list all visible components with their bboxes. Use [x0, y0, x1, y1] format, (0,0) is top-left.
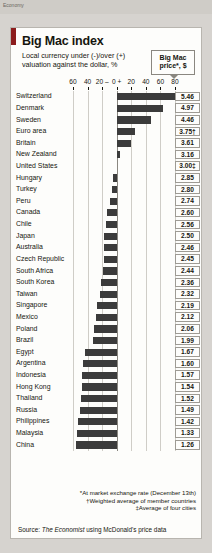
country-label: New Zealand — [16, 150, 57, 157]
price-value: 2.45 — [175, 254, 200, 264]
country-label: Thailand — [16, 394, 42, 401]
source-suffix: using McDonald's price data — [84, 526, 166, 533]
country-label: Australia — [16, 243, 43, 250]
x-tick-label: 0 + — [112, 78, 121, 85]
value-bar — [112, 186, 117, 193]
price-value: 3.61 — [175, 138, 200, 148]
x-tick-label: 40 — [84, 78, 91, 85]
price-value: 2.06 — [175, 324, 200, 334]
value-bar — [97, 302, 117, 309]
price-value: 2.32 — [175, 289, 200, 299]
country-label: Egypt — [16, 348, 34, 355]
x-tick-mark — [102, 87, 103, 90]
x-tick-label: 20 – — [96, 78, 109, 85]
price-value: 1.60 — [175, 359, 200, 369]
country-label: Philippines — [16, 417, 49, 424]
value-bar — [78, 418, 117, 425]
chart-row: Euro area3.75† — [11, 126, 203, 138]
chart-row: Malaysia1.33 — [11, 428, 203, 440]
source-prefix: Source: — [18, 526, 42, 533]
chart-row: Egypt1.67 — [11, 346, 203, 358]
chart-row: Canada2.60 — [11, 207, 203, 219]
value-bar — [85, 349, 117, 356]
x-tick-mark — [146, 87, 147, 90]
country-label: South Africa — [16, 267, 53, 274]
country-label: Canada — [16, 208, 40, 215]
value-bar — [80, 407, 116, 414]
x-tick-mark — [117, 87, 118, 90]
country-label: Singapore — [16, 301, 47, 308]
value-bar — [81, 395, 117, 402]
x-tick-label: 40 — [142, 78, 149, 85]
value-bar — [104, 256, 117, 263]
country-label: Denmark — [16, 104, 44, 111]
price-value: 2.85 — [175, 173, 200, 183]
chart-row: Turkey2.80 — [11, 184, 203, 196]
chart-row: New Zealand3.16 — [11, 149, 203, 161]
price-value: 1.52 — [175, 394, 200, 404]
country-label: China — [16, 441, 34, 448]
value-bar — [106, 221, 117, 228]
chart-row: Peru2.74 — [11, 195, 203, 207]
country-label: Russia — [16, 406, 37, 413]
footnote-four-cities: ‡Average of four cities — [80, 504, 196, 512]
country-label: Japan — [16, 232, 35, 239]
price-value: 2.36 — [175, 278, 200, 288]
price-value: 1.33 — [175, 428, 200, 438]
price-value: 1.42 — [175, 417, 200, 427]
value-bar — [103, 267, 117, 274]
country-label: Hungary — [16, 174, 42, 181]
country-label: Taiwan — [16, 290, 37, 297]
value-bar — [76, 441, 117, 448]
country-label: South Korea — [16, 278, 54, 285]
country-label: Euro area — [16, 127, 46, 134]
chart-row: Russia1.49 — [11, 404, 203, 416]
chart-row: Poland2.06 — [11, 323, 203, 335]
price-value: 3.16 — [175, 150, 200, 160]
value-bar — [110, 198, 117, 205]
chart-row: Hong Kong1.54 — [11, 381, 203, 393]
x-tick-mark — [88, 87, 89, 90]
chart-row: Switzerland5.46 — [11, 91, 203, 103]
price-value: 2.80 — [175, 185, 200, 195]
chart-row: Sweden4.46 — [11, 114, 203, 126]
value-bar — [93, 337, 117, 344]
value-bar — [117, 93, 176, 100]
chart-row: Denmark4.97 — [11, 103, 203, 115]
chart-plot-area: 604020 –0 +20406080 Switzerland5.46Denma… — [11, 28, 203, 540]
value-bar — [77, 430, 117, 437]
value-bar — [117, 116, 151, 123]
country-label: Peru — [16, 197, 31, 204]
page-top-strip: Economy — [0, 0, 212, 14]
price-value: 2.74 — [175, 196, 200, 206]
price-value: 2.12 — [175, 312, 200, 322]
chart-row: South Korea2.36 — [11, 277, 203, 289]
chart-row: Japan2.50 — [11, 230, 203, 242]
country-label: Poland — [16, 325, 37, 332]
value-bar — [104, 233, 116, 240]
price-value: 3.75† — [175, 127, 200, 137]
footnote-weighted-average: †Weighted average of member countries — [80, 497, 196, 505]
price-value: 4.97 — [175, 103, 200, 113]
country-label: Czech Republic — [16, 255, 64, 262]
country-label: Sweden — [16, 116, 41, 123]
screenshot-root: Economy Big Mac index Local currency und… — [0, 0, 212, 553]
source-name: The Economist — [42, 526, 85, 533]
x-tick-mark — [131, 87, 132, 90]
price-value: 2.56 — [175, 220, 200, 230]
value-bar — [83, 360, 117, 367]
chart-row: Czech Republic2.45 — [11, 254, 203, 266]
chart-row: China1.26 — [11, 439, 203, 451]
country-label: United States — [16, 162, 57, 169]
price-value: 5.46 — [175, 92, 200, 102]
price-value: 2.19 — [175, 301, 200, 311]
country-label: Malaysia — [16, 429, 43, 436]
price-value: 1.26 — [175, 440, 200, 450]
chart-row: Indonesia1.57 — [11, 370, 203, 382]
chart-row: Britain3.61 — [11, 137, 203, 149]
price-value: 3.00‡ — [175, 161, 200, 171]
price-value: 1.49 — [175, 405, 200, 415]
price-value: 2.60 — [175, 208, 200, 218]
chart-row: South Africa2.44 — [11, 265, 203, 277]
value-bar — [117, 140, 132, 147]
